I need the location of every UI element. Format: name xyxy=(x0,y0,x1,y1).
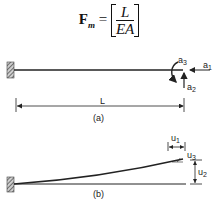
label-u3: u3 xyxy=(187,150,196,161)
caption-b: (b) xyxy=(93,189,104,199)
figure-b: u3 u1 u2 (b) xyxy=(7,133,207,199)
dimension-arrowhead-left xyxy=(17,104,22,109)
u1-arrowhead-right xyxy=(180,145,184,149)
length-label: L xyxy=(100,96,105,106)
label-a1: a1 xyxy=(203,60,212,71)
label-a3: a3 xyxy=(178,55,187,66)
moment-arrow-icon xyxy=(172,62,178,82)
fixed-support-icon xyxy=(7,177,14,192)
figure-a: a3 a1 a2 L (a) xyxy=(7,55,212,123)
beam-diagrams: a3 a1 a2 L (a) u3 u1 u2 xyxy=(0,0,218,208)
caption-a: (a) xyxy=(93,113,104,123)
label-u2: u2 xyxy=(198,167,207,178)
u2-arrowhead-top xyxy=(193,161,197,165)
label-u1: u1 xyxy=(171,133,180,144)
label-a2: a2 xyxy=(187,82,196,93)
fixed-support-icon xyxy=(7,62,14,78)
deflected-beam xyxy=(14,159,183,184)
u1-arrowhead-left xyxy=(169,145,173,149)
u2-arrowhead-bottom xyxy=(193,179,197,183)
